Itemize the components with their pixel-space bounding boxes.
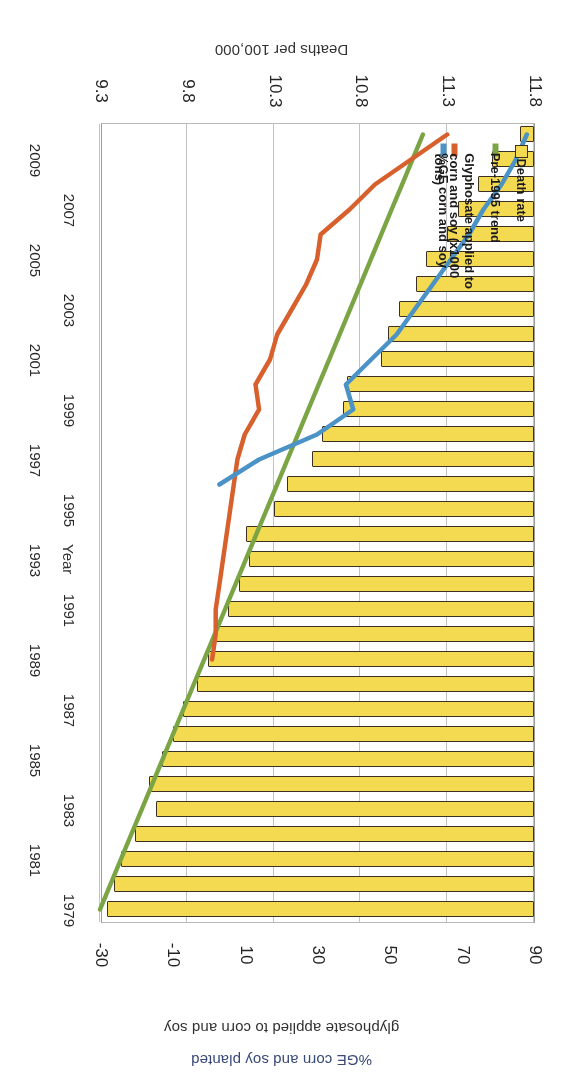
year-tick-label: 1979	[61, 885, 78, 937]
primary-tick-label: 10.3	[265, 64, 285, 118]
secondary-tick-label: 70	[453, 932, 473, 978]
legend-item: Death rate	[514, 141, 529, 401]
legend-label: Death rate	[514, 158, 529, 222]
primary-tick-label: 10.8	[351, 64, 371, 118]
primary-tick-label: 11.8	[525, 64, 545, 118]
secondary-tick-label: -10	[163, 932, 183, 978]
line-pre-1995-trend	[100, 135, 423, 910]
secondary-tick-label: 50	[380, 932, 400, 978]
secondary-axis-title-line1: glyphosate applied to corn and soy	[0, 1020, 563, 1037]
year-tick-label: 1981	[27, 835, 44, 887]
legend-item: Pre-1995 trend	[488, 141, 503, 401]
primary-axis-title: Deaths per 100,000	[0, 42, 563, 59]
primary-tick-label: 11.3	[438, 64, 458, 118]
legend-label: Pre-1995 trend	[488, 153, 503, 243]
chart-figure: glyphosate applied to corn and soy %GE c…	[0, 0, 563, 1089]
primary-tick-label: 9.8	[178, 64, 198, 118]
year-tick-label: 2003	[61, 285, 78, 337]
year-tick-label: 1985	[27, 735, 44, 787]
year-tick-label: 2009	[27, 135, 44, 187]
primary-tick-label: 9.3	[91, 64, 111, 118]
rotated-scan-container: glyphosate applied to corn and soy %GE c…	[0, 0, 563, 1089]
year-tick-label: 1997	[27, 435, 44, 487]
year-tick-label: 2001	[27, 335, 44, 387]
secondary-tick-label: 10	[236, 932, 256, 978]
category-axis-title: Year	[60, 544, 77, 574]
year-tick-label: 1987	[61, 685, 78, 737]
year-tick-label: 1999	[61, 385, 78, 437]
legend-swatch-box-icon	[515, 145, 528, 158]
chart-legend: Death ratePre-1995 trendGlyphosate appli…	[379, 141, 529, 401]
year-tick-label: 1989	[27, 635, 44, 687]
year-tick-label: 1983	[61, 785, 78, 837]
secondary-axis-title-line2: %GE corn and soy planted	[0, 1052, 563, 1069]
year-tick-label: 2007	[61, 185, 78, 237]
legend-item: %GE corn and soy	[436, 141, 451, 401]
year-tick-label: 1993	[27, 535, 44, 587]
year-tick-label: 2005	[27, 235, 44, 287]
year-tick-label: 1991	[61, 585, 78, 637]
year-tick-label: 1995	[61, 485, 78, 537]
secondary-tick-label: 30	[308, 932, 328, 978]
secondary-tick-label: -30	[91, 932, 111, 978]
secondary-tick-label: 90	[525, 932, 545, 978]
legend-label: %GE corn and soy	[436, 153, 451, 268]
